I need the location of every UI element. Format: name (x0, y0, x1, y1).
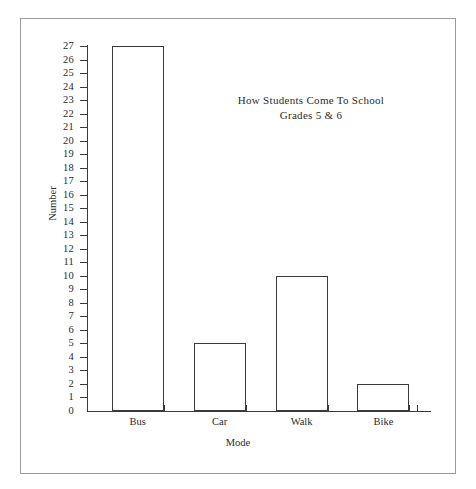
y-tick (80, 249, 87, 250)
y-tick-label: 27 (34, 41, 74, 52)
y-tick-label: 26 (34, 55, 74, 66)
y-tick (80, 330, 87, 331)
chart-title-line-2: Grades 5 & 6 (196, 108, 426, 123)
y-tick-label: 21 (34, 122, 74, 133)
x-tick-label-walk: Walk (262, 416, 342, 428)
y-tick (80, 289, 87, 290)
y-tick (80, 222, 87, 223)
y-tick-label: 22 (34, 109, 74, 120)
y-tick (80, 46, 87, 47)
x-tick (409, 405, 410, 412)
x-tick (246, 405, 247, 412)
x-axis-line (87, 411, 431, 412)
bar-bus (112, 46, 164, 411)
y-tick-label: 0 (34, 406, 74, 417)
x-axis-title: Mode (0, 437, 476, 448)
bar-walk (276, 276, 328, 411)
x-tick (417, 405, 418, 412)
x-tick (164, 405, 165, 412)
chart-title: How Students Come To School Grades 5 & 6 (196, 93, 426, 123)
y-tick (80, 100, 87, 101)
y-axis-title: Number (47, 174, 58, 234)
y-tick-label: 5 (34, 338, 74, 349)
x-tick-label-bike: Bike (343, 416, 423, 428)
y-tick (80, 195, 87, 196)
y-tick (80, 141, 87, 142)
y-tick (80, 370, 87, 371)
y-tick-label: 3 (34, 365, 74, 376)
y-tick (80, 181, 87, 182)
y-tick (80, 357, 87, 358)
y-tick-label: 7 (34, 311, 74, 322)
bar-bike (357, 384, 409, 411)
chart-title-line-1: How Students Come To School (196, 93, 426, 108)
x-tick-label-car: Car (180, 416, 260, 428)
y-axis-line (87, 45, 88, 412)
y-tick-label: 2 (34, 379, 74, 390)
y-tick (80, 343, 87, 344)
y-tick (80, 316, 87, 317)
y-tick-label: 9 (34, 284, 74, 295)
y-tick (80, 262, 87, 263)
y-tick-label: 12 (34, 244, 74, 255)
y-tick-label: 20 (34, 136, 74, 147)
y-tick (80, 208, 87, 209)
y-tick (80, 276, 87, 277)
y-tick-label: 1 (34, 392, 74, 403)
y-tick-label: 6 (34, 325, 74, 336)
y-tick-label: 25 (34, 68, 74, 79)
bar-car (194, 343, 246, 411)
y-tick-label: 24 (34, 82, 74, 93)
bar-chart: How Students Come To School Grades 5 & 6… (0, 0, 476, 489)
y-tick-label: 4 (34, 352, 74, 363)
y-tick-label: 10 (34, 271, 74, 282)
y-tick (80, 60, 87, 61)
y-tick (80, 114, 87, 115)
y-tick (80, 397, 87, 398)
x-tick-label-bus: Bus (98, 416, 178, 428)
y-tick-label: 8 (34, 298, 74, 309)
y-tick (80, 154, 87, 155)
y-tick (80, 73, 87, 74)
y-tick-label: 19 (34, 149, 74, 160)
y-tick (80, 303, 87, 304)
y-tick (80, 235, 87, 236)
y-tick-label: 18 (34, 163, 74, 174)
y-tick (80, 168, 87, 169)
y-tick (80, 127, 87, 128)
y-tick-label: 11 (34, 257, 74, 268)
y-tick (80, 87, 87, 88)
x-tick (328, 405, 329, 412)
y-tick (80, 384, 87, 385)
y-tick-label: 23 (34, 95, 74, 106)
